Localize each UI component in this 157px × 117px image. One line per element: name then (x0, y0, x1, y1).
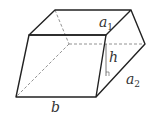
label-a2: a2 (126, 71, 140, 89)
label-b: b (51, 99, 60, 115)
parallelepiped-diagram: a1 h a2 b (0, 0, 157, 117)
hidden-edge-back-diagonal (16, 44, 69, 97)
right-angle-marker (106, 72, 109, 76)
label-h: h (109, 49, 118, 65)
hidden-edge-back-vertical (55, 10, 69, 44)
label-a1: a1 (99, 14, 113, 32)
front-face (16, 35, 106, 97)
top-face (29, 10, 131, 35)
